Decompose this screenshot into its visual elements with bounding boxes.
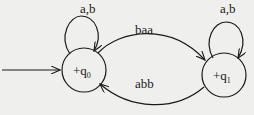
state-q1: +q1 (202, 53, 246, 97)
state-q1-label: +q1 (213, 68, 231, 85)
state-q0-label: +q0 (73, 63, 91, 80)
transition-q0-q1-label: baa (135, 22, 153, 37)
self-loop-q0-label: a,b (80, 1, 96, 16)
transition-q1-q0: abb (100, 76, 204, 105)
state-q0: +q0 (62, 48, 106, 92)
self-loop-q0: a,b (65, 1, 98, 54)
self-loop-q1-label: a,b (220, 1, 236, 16)
automaton-diagram: +q0 +q1 a,b a,b baa abb (0, 0, 254, 115)
diagram-svg: +q0 +q1 a,b a,b baa abb (0, 0, 254, 115)
transition-q0-q1: baa (98, 22, 205, 60)
self-loop-q1: a,b (209, 1, 243, 58)
transition-q1-q0-label: abb (135, 76, 154, 91)
